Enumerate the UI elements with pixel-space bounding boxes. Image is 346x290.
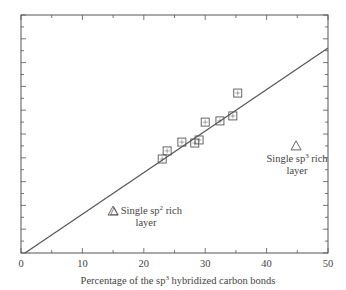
x-tick-label: 30 [200,258,211,269]
square-marker [163,147,171,155]
square-marker [234,89,242,97]
x-tick-label: 0 [18,258,23,269]
x-axis-label: Percentage of the sp3 hybridized carbon … [0,275,346,286]
chart-plot [0,0,346,290]
x-tick-label: 10 [77,258,88,269]
square-marker [201,118,209,126]
x-tick-label: 40 [261,258,272,269]
x-tick-label: 50 [323,258,334,269]
triangle-icon: △ [110,205,118,216]
x-tick-label: 20 [139,258,150,269]
annotation-sp2-layer: △ Single sp2 rich layer [110,205,182,229]
triangle-marker [291,141,301,150]
annotation-sp3-layer: Single sp3 rich layer [262,153,332,177]
